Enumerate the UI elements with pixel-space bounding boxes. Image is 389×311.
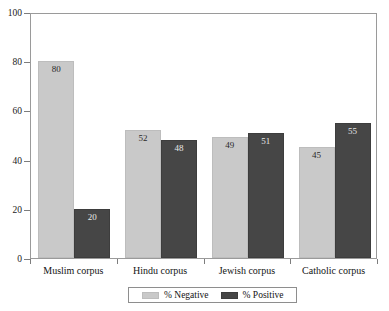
bar-negative[interactable]: 45	[299, 147, 335, 258]
x-axis-category-label: Muslim corpus	[30, 265, 117, 277]
bar-value-label: 48	[162, 143, 196, 153]
bar-value-label: 20	[75, 212, 109, 222]
y-axis-tick-label: 0	[0, 254, 22, 264]
legend-entry[interactable]: % Negative	[142, 290, 209, 300]
bar-value-label: 80	[39, 64, 73, 74]
bar-positive[interactable]: 51	[248, 133, 284, 258]
legend-label: % Negative	[164, 290, 209, 300]
bar-value-label: 45	[300, 150, 334, 160]
bars-layer: 8020524849514555	[31, 14, 376, 258]
x-axis-tick	[290, 259, 291, 264]
bar-negative[interactable]: 49	[212, 137, 248, 258]
x-axis-category-label: Hindu corpus	[117, 265, 204, 277]
y-axis-tick-label: 40	[0, 156, 22, 166]
bar-positive[interactable]: 20	[74, 209, 110, 258]
bar-positive[interactable]: 55	[335, 123, 371, 258]
legend-swatch-icon	[221, 292, 238, 299]
chart-legend: % Negative% Positive	[128, 287, 297, 303]
bar-negative[interactable]: 80	[38, 61, 74, 258]
y-axis-tick-label: 80	[0, 57, 22, 67]
legend-label: % Positive	[243, 290, 284, 300]
x-axis-tick	[30, 259, 31, 264]
x-axis-category-label: Jewish corpus	[204, 265, 291, 277]
bar-positive[interactable]: 48	[161, 140, 197, 258]
y-axis-tick-label: 20	[0, 205, 22, 215]
x-axis-category-label: Catholic corpus	[290, 265, 377, 277]
y-axis-tick-label: 60	[0, 106, 22, 116]
bar-value-label: 51	[249, 136, 283, 146]
y-axis-tick-label: 100	[0, 8, 22, 18]
bar-value-label: 52	[126, 133, 160, 143]
bar-negative[interactable]: 52	[125, 130, 161, 258]
x-axis-tick	[117, 259, 118, 264]
bar-chart-figure: 8020524849514555 100806040200 Muslim cor…	[0, 0, 389, 311]
legend-entry[interactable]: % Positive	[221, 290, 284, 300]
bar-value-label: 49	[213, 140, 247, 150]
legend-swatch-icon	[142, 292, 159, 299]
plot-area: 8020524849514555	[30, 13, 377, 259]
x-axis-tick	[377, 259, 378, 264]
bar-value-label: 55	[336, 126, 370, 136]
x-axis-tick	[204, 259, 205, 264]
